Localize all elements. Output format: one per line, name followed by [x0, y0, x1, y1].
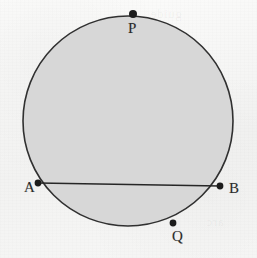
- circle-shape: [23, 16, 233, 226]
- circle-diagram: [0, 0, 257, 258]
- point-label-q: Q: [172, 229, 183, 244]
- point-label-a: A: [24, 180, 35, 195]
- figure-canvas: guidethesamelinenotesthecirclebelowarc P…: [0, 0, 257, 258]
- point-marker-a: [35, 180, 42, 187]
- point-label-p: P: [128, 21, 136, 36]
- point-marker-q: [170, 220, 177, 227]
- point-label-b: B: [229, 181, 239, 196]
- point-marker-b: [217, 183, 224, 190]
- point-marker-p: [129, 10, 137, 18]
